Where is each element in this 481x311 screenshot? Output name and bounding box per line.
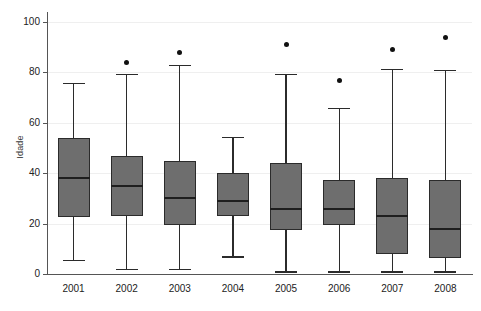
whisker-upper [232,137,233,174]
box [217,173,249,216]
plot-frame [47,12,473,275]
whisker-upper [339,108,340,180]
median-line [58,177,90,179]
whisker-cap-lower [328,271,350,272]
whisker-cap-upper [275,74,297,75]
median-line [164,197,196,199]
whisker-lower [73,217,74,260]
whisker-cap-upper [328,108,350,109]
outlier-point [443,35,448,40]
x-tick-label: 2008 [421,284,469,294]
box [323,180,355,225]
y-tick-label: 0 [10,269,40,279]
boxplot-chart: Idade 020406080100 200120022003200420052… [0,0,481,311]
whisker-cap-upper [116,74,138,75]
whisker-cap-lower [381,271,403,272]
y-tick-label: 80 [10,67,40,77]
whisker-cap-lower [275,271,297,272]
box [429,180,461,258]
x-tick-label: 2003 [156,284,204,294]
whisker-lower [445,258,446,272]
x-tick-label: 2007 [368,284,416,294]
whisker-cap-lower [63,260,85,261]
whisker-lower [339,225,340,272]
median-line [270,208,302,210]
whisker-upper [285,74,286,163]
median-line [376,215,408,217]
whisker-lower [126,216,127,269]
box [270,163,302,230]
median-line [429,228,461,230]
y-tick-label: 100 [10,17,40,27]
x-tick-label: 2004 [209,284,257,294]
x-tick-label: 2006 [315,284,363,294]
whisker-upper [392,69,393,179]
whisker-lower [232,216,233,256]
x-tick-label: 2001 [50,284,98,294]
whisker-cap-lower [116,269,138,270]
whisker-upper [445,70,446,180]
median-line [323,208,355,210]
median-line [217,200,249,202]
whisker-cap-upper [169,65,191,66]
whisker-cap-upper [222,137,244,138]
x-tick-label: 2002 [103,284,151,294]
whisker-lower [285,230,286,272]
y-tick-label: 60 [10,118,40,128]
outlier-point [337,78,342,83]
y-tick-label: 40 [10,168,40,178]
box [164,161,196,225]
whisker-cap-lower [434,271,456,272]
whisker-cap-upper [63,83,85,84]
whisker-upper [179,65,180,161]
median-line [111,185,143,187]
whisker-cap-upper [381,69,403,70]
outlier-point [284,42,289,47]
x-tick-label: 2005 [262,284,310,294]
whisker-lower [392,254,393,272]
y-tick-label: 20 [10,219,40,229]
whisker-upper [73,83,74,138]
whisker-cap-lower [222,256,244,257]
whisker-upper [126,74,127,156]
whisker-lower [179,225,180,269]
whisker-cap-upper [434,70,456,71]
whisker-cap-lower [169,269,191,270]
